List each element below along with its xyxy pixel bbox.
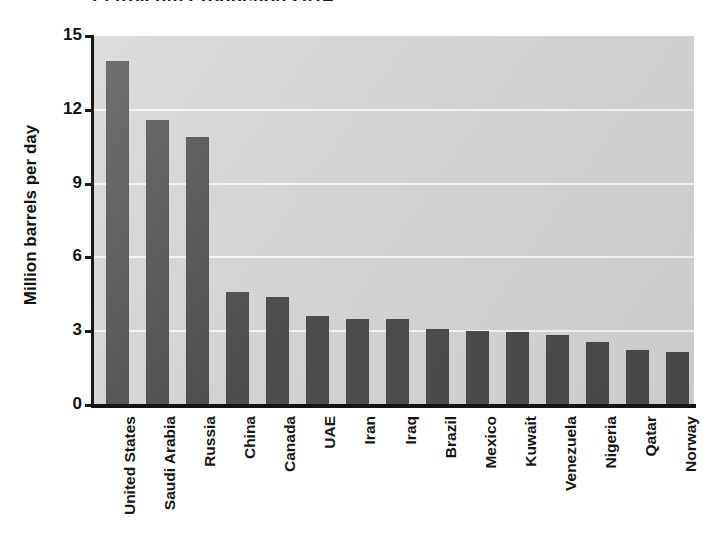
y-tick-mark [85,35,93,38]
y-tick-label: 3 [44,320,82,340]
y-tick-label: 12 [44,99,82,119]
y-tick-mark [85,183,93,186]
x-axis-label: Saudi Arabia [162,416,178,510]
x-axis-label: Qatar [643,416,659,457]
x-axis-label: Iran [362,416,378,444]
bar [226,292,249,405]
y-tick-mark [85,256,93,259]
y-tick-label: 15 [44,25,82,45]
bar [586,342,609,405]
plot-area [93,36,694,405]
bar [506,332,529,405]
x-axis-label: Venezuela [563,416,579,491]
bar [106,61,129,405]
petroleum-production-bar-chart: Petroleum Production 2014 Million barrel… [0,0,703,557]
x-axis-label: United States [122,416,138,515]
x-axis-label: Canada [282,416,298,472]
bar [146,120,169,405]
x-axis-label: Kuwait [523,416,539,467]
bars-group [93,36,694,405]
x-axis-label: Russia [202,416,218,467]
x-axis-category-labels: United StatesSaudi ArabiaRussiaChinaCana… [93,410,694,557]
bar [426,329,449,405]
y-axis-line [91,35,94,407]
x-axis-line [91,404,696,408]
y-tick-mark [85,404,93,407]
x-axis-label: Norway [683,416,699,472]
bar [626,350,649,405]
x-axis-label: Nigeria [603,416,619,469]
y-tick-mark [85,109,93,112]
chart-title: Petroleum Production 2014 [92,0,333,1]
bar [306,316,329,405]
y-tick-label: 9 [44,173,82,193]
y-axis-tick-labels: 03691215 [30,0,82,460]
x-axis-label: Iraq [403,416,419,444]
x-axis-label: Brazil [443,416,459,458]
y-tick-label: 6 [44,246,82,266]
bar [186,137,209,405]
y-tick-label: 0 [44,394,82,414]
bar [386,319,409,405]
x-axis-label: China [242,416,258,459]
x-axis-label: UAE [322,416,338,449]
y-tick-mark [85,330,93,333]
bar [266,297,289,405]
bar [546,335,569,405]
bar [666,352,689,405]
bar [466,331,489,405]
bar [346,319,369,405]
x-axis-label: Mexico [483,416,499,469]
